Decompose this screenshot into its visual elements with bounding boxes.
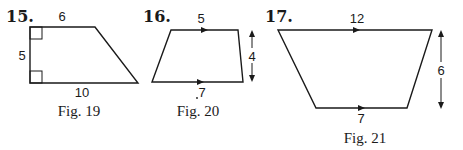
height-arrow-up-icon	[438, 30, 444, 37]
right-trapezoid-shape	[30, 27, 138, 83]
trapezoid-figures: 15. 6 5 10 Fig. 19 16. 4 5 7 Fig. 20 17.…	[0, 0, 463, 150]
figure-caption: Fig. 21	[344, 130, 387, 146]
label-top-side: 5	[197, 11, 204, 26]
figure-caption: Fig. 20	[177, 103, 220, 119]
height-arrow-down-icon	[438, 102, 444, 109]
parallel-arrow-top-icon	[201, 27, 208, 33]
problem-number-17: 17.	[265, 7, 293, 26]
label-bottom-side: 7	[357, 111, 364, 126]
label-bottom-side: 7	[198, 85, 205, 100]
label-top-side: 6	[58, 9, 65, 24]
right-angle-marker-bottom	[30, 71, 42, 83]
figure-15: 15. 6 5 10 Fig. 19	[6, 7, 138, 119]
height-arrow-up-icon	[249, 30, 255, 37]
parallel-arrow-top-icon	[353, 27, 360, 33]
label-height: 6	[437, 63, 444, 78]
figure-caption: Fig. 19	[58, 103, 101, 119]
figure-17: 17. 6 12 7 Fig. 21	[265, 7, 447, 146]
problem-number-16: 16.	[143, 7, 171, 26]
scan-dot	[196, 97, 198, 99]
label-left-side: 5	[18, 48, 25, 63]
label-bottom-side: 10	[75, 85, 89, 100]
figure-16: 16. 4 5 7 Fig. 20	[143, 7, 258, 119]
right-angle-marker-top	[30, 27, 42, 39]
problem-number-15: 15.	[6, 7, 34, 26]
trapezoid-shape	[278, 30, 432, 108]
height-arrow-down-icon	[249, 75, 255, 82]
trapezoid-shape	[152, 30, 243, 82]
label-top-side: 12	[350, 11, 364, 26]
label-height: 4	[248, 49, 255, 64]
